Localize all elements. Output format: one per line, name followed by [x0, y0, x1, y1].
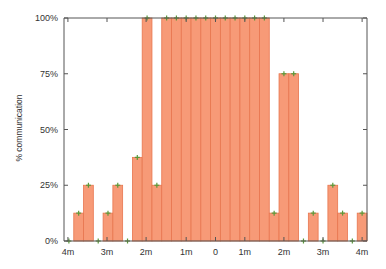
bar	[240, 18, 250, 241]
x-tick-label: 1m	[239, 247, 252, 257]
y-tick-label: 0%	[45, 236, 58, 246]
x-tick-label: 0	[213, 247, 218, 257]
bar	[84, 185, 94, 241]
x-tick-label: 2m	[278, 247, 291, 257]
bar	[74, 213, 84, 241]
bar	[201, 18, 211, 241]
bar	[357, 213, 367, 241]
bar	[269, 213, 279, 241]
x-tick-label: 4m	[356, 247, 369, 257]
y-tick-label: 50%	[40, 125, 58, 135]
y-tick-label: 75%	[40, 69, 58, 79]
bar	[211, 18, 221, 241]
bar	[220, 18, 230, 241]
bar	[308, 213, 318, 241]
x-tick-label: 1m	[180, 247, 193, 257]
bar	[259, 18, 269, 241]
bar	[191, 18, 201, 241]
bar	[289, 74, 299, 241]
bar	[103, 213, 113, 241]
x-tick-label: 3m	[317, 247, 330, 257]
bar	[181, 18, 191, 241]
bar	[172, 18, 182, 241]
x-tick-label: 3m	[101, 247, 114, 257]
bar	[152, 185, 162, 241]
bar	[338, 213, 348, 241]
bar	[230, 18, 240, 241]
bar	[142, 18, 152, 241]
bar	[132, 157, 142, 241]
y-tick-label: 100%	[35, 13, 58, 23]
y-axis-label: % communication	[14, 94, 24, 161]
bars-group	[74, 18, 367, 241]
bar-chart: 0%25%50%75%100% 4m3m2m1m01m2m3m4m % comm…	[0, 0, 386, 269]
bar	[328, 185, 338, 241]
bar	[250, 18, 260, 241]
x-tick-label: 4m	[62, 247, 75, 257]
bar	[279, 74, 289, 241]
bar	[162, 18, 172, 241]
y-tick-label: 25%	[40, 180, 58, 190]
x-tick-label: 2m	[140, 247, 153, 257]
bar	[113, 185, 123, 241]
